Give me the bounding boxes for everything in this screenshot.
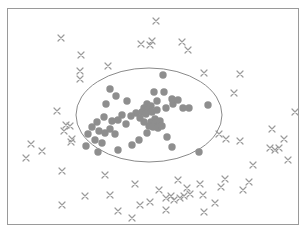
data-point-inlier	[100, 113, 107, 120]
data-point-inlier	[204, 101, 211, 108]
data-point-inlier	[114, 146, 121, 153]
data-point-inlier	[185, 104, 192, 111]
data-point-inlier	[106, 85, 113, 92]
data-point-inlier	[122, 120, 129, 127]
data-point-inlier	[153, 97, 160, 104]
data-point-inlier	[135, 136, 142, 143]
data-point-inlier	[127, 112, 134, 119]
data-point-inlier	[84, 130, 91, 137]
data-point-inlier	[102, 100, 109, 107]
data-point-inlier	[143, 129, 150, 136]
data-point-inlier	[160, 88, 167, 95]
data-point-inlier	[111, 130, 118, 137]
figure-caption	[0, 229, 305, 240]
data-point-inlier	[168, 95, 175, 102]
data-point-inlier	[163, 133, 170, 140]
data-point-inlier	[82, 142, 89, 149]
data-point-inlier	[128, 141, 135, 148]
data-point-inlier	[168, 143, 175, 150]
data-point-inlier	[91, 136, 98, 143]
data-point-inlier	[123, 97, 130, 104]
data-point-inlier	[153, 106, 160, 113]
scatter-plot-canvas	[0, 0, 305, 240]
data-point-inlier	[195, 148, 202, 155]
data-point-inlier	[94, 148, 101, 155]
data-point-inlier	[136, 114, 143, 121]
data-point-inlier	[162, 104, 169, 111]
figure-container	[0, 0, 305, 240]
data-point-inlier	[88, 123, 95, 130]
data-point-inlier	[98, 139, 105, 146]
data-point-inlier	[159, 71, 166, 78]
data-point-inlier	[108, 117, 115, 124]
data-point-inlier	[150, 88, 157, 95]
data-point-inlier	[158, 122, 165, 129]
data-point-inlier	[112, 92, 119, 99]
